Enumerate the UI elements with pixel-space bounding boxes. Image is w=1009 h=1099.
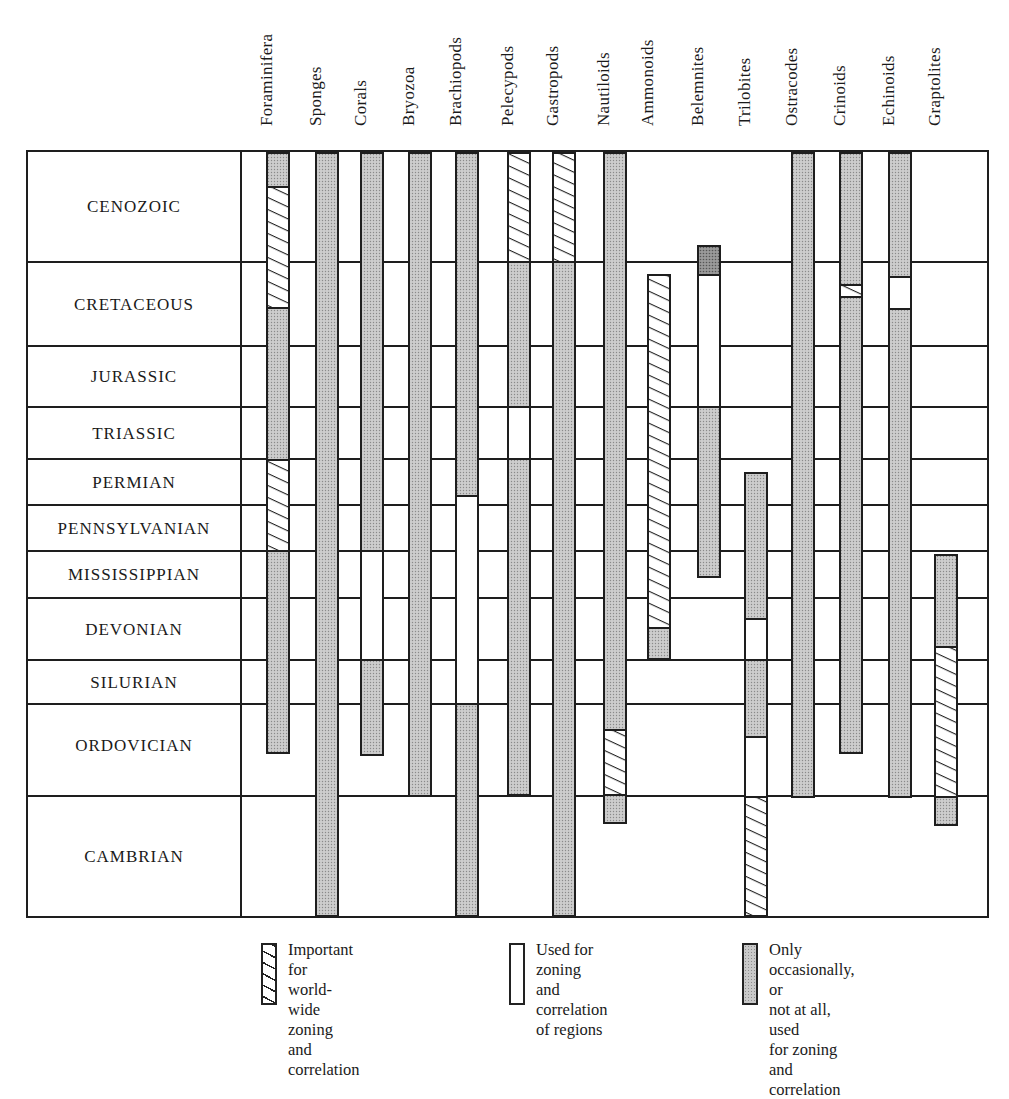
period-label-jurassic: JURASSIC [28,347,240,407]
period-label-silurian: SILURIAN [28,661,240,704]
bar-graptolites [935,555,957,825]
bar-pelecypods [508,153,530,795]
column-header-bryozoa: Bryozoa [394,0,424,146]
column-header-echinoids: Echinoids [874,0,904,146]
white-swatch-icon [509,943,525,1005]
column-header-ostracodes: Ostracodes [777,0,807,146]
column-header-sponges: Sponges [301,0,331,146]
period-label-cambrian: CAMBRIAN [28,797,240,917]
bar-belemnites [698,246,720,577]
bar-nautiloids [604,153,626,823]
column-header-graptolites: Graptolites [920,0,950,146]
period-label-cretaceous: CRETACEOUS [28,263,240,346]
period-label-triassic: TRIASSIC [28,408,240,459]
column-header-nautiloids: Nautiloids [589,0,619,146]
bar-bryozoa [409,153,431,796]
column-header-pelecypods: Pelecypods [493,0,523,146]
period-label-pennsylvanian: PENNSYLVANIAN [28,506,240,551]
column-header-trilobites: Trilobites [730,0,760,146]
period-label-ordovician: ORDOVICIAN [28,705,240,787]
bar-echinoids [889,153,911,797]
bar-ammonoids [648,275,670,659]
column-header-foraminifera: Foraminifera [252,0,282,146]
period-label-cenozoic: CENOZOIC [28,152,240,262]
legend-label: Important for world-wide zoning and corr… [288,940,359,1080]
bar-crinoids [840,153,862,753]
bar-trilobites [745,473,767,916]
column-header-brachiopods: Brachiopods [441,0,471,146]
bar-foraminifera [267,153,289,753]
hatch-swatch-icon [261,943,277,1005]
column-header-corals: Corals [346,0,376,146]
column-header-gastropods: Gastropods [538,0,568,146]
column-header-ammonoids: Ammonoids [633,0,663,146]
period-label-mississippian: MISSISSIPPIAN [28,552,240,598]
column-header-crinoids: Crinoids [825,0,855,146]
bar-sponges [316,153,338,916]
period-label-permian: PERMIAN [28,460,240,505]
stipple-swatch-icon [742,943,758,1005]
bar-ostracodes [792,153,814,797]
column-header-belemnites: Belemnites [683,0,713,146]
period-label-devonian: DEVONIAN [28,599,240,660]
bar-brachiopods [456,153,478,916]
bar-corals [361,153,383,755]
bar-gastropods [553,153,575,916]
legend-label: Only occasionally, or not at all, used f… [769,940,855,1099]
legend-label: Used for zoning and correlation of regio… [536,940,607,1040]
